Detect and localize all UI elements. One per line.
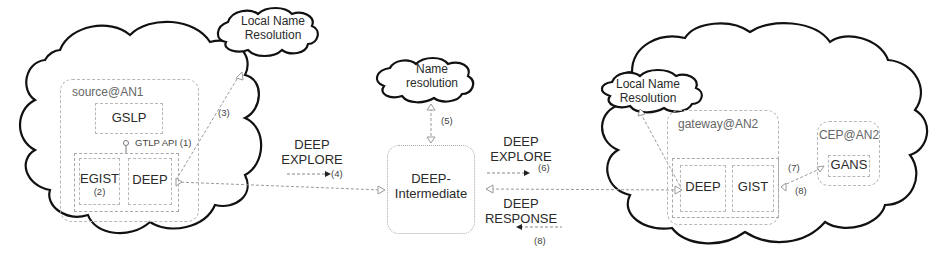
left-local-resolution-line2: Resolution <box>236 29 310 43</box>
name-resolution-line2: resolution <box>396 77 468 91</box>
arrowhead-intermediate-left <box>378 186 385 194</box>
left-local-resolution-line1: Local Name <box>236 15 310 29</box>
api-label: GTLP API (1) <box>135 138 191 149</box>
arrowhead-name-resolution-top <box>427 104 435 110</box>
left-message-line1: DEEP <box>277 138 347 153</box>
connector-gateway-to-intermediate <box>486 189 680 190</box>
gateway-host-label: gateway@AN2 <box>678 118 758 132</box>
step-7: (7) <box>788 163 800 174</box>
step-8-gans: (8) <box>795 186 807 197</box>
source-host-label: source@AN1 <box>72 86 144 100</box>
step-8-response: (8) <box>534 236 546 247</box>
arrowhead-gist-right <box>781 183 786 191</box>
name-resolution-label: Name resolution <box>396 63 468 91</box>
message-arrowhead-6 <box>524 170 530 176</box>
egist-step: (2) <box>79 187 120 198</box>
gans-label: GANS <box>828 158 870 173</box>
intermediate-line2: Intermediate <box>387 187 475 202</box>
deep-label-right: DEEP <box>680 180 726 195</box>
name-resolution-line1: Name <box>396 63 468 77</box>
right-local-resolution-label: Local Name Resolution <box>607 78 689 106</box>
intermediate-label: DEEP- Intermediate <box>387 172 475 202</box>
arrowhead-intermediate-right <box>486 185 493 193</box>
arrowhead-name-resolution-bottom <box>427 137 435 143</box>
step-3: (3) <box>218 108 230 119</box>
right-response-line1: DEEP <box>480 197 562 212</box>
gist-label: GIST <box>732 180 774 195</box>
intermediate-line1: DEEP- <box>387 172 475 187</box>
cep-host-label: CEP@AN2 <box>817 129 881 143</box>
step-5: (5) <box>441 116 453 127</box>
right-explore-line1: DEEP <box>485 135 557 150</box>
egist-label: EGIST <box>79 172 120 187</box>
arrowhead-local-resolution-left <box>236 72 243 80</box>
right-response-line2: RESPONSE <box>480 212 562 227</box>
api-step: (1) <box>180 137 192 148</box>
left-message-line2: EXPLORE <box>277 153 347 168</box>
deep-label-left: DEEP <box>128 173 172 188</box>
gslp-label: GSLP <box>95 111 163 126</box>
right-local-resolution-line2: Resolution <box>607 92 689 106</box>
right-response-label: DEEP RESPONSE <box>480 197 562 227</box>
step-6: (6) <box>538 163 550 174</box>
connector-deep-to-intermediate <box>176 182 382 190</box>
right-explore-label: DEEP EXPLORE <box>485 135 557 165</box>
left-local-resolution-label: Local Name Resolution <box>236 15 310 43</box>
step-4: (4) <box>331 169 343 180</box>
api-label-text: GTLP API <box>135 137 177 148</box>
right-local-resolution-line1: Local Name <box>607 78 689 92</box>
left-message-label: DEEP EXPLORE <box>277 138 347 168</box>
